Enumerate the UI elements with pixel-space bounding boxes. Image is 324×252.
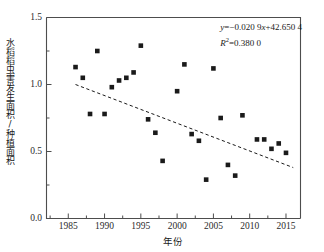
eq-intercept: +42.650 4 xyxy=(265,22,302,32)
y-tick-label: 0.5 xyxy=(19,146,42,156)
regression-equation: y=−0.020 9x+42.650 4 xyxy=(220,22,302,34)
data-point xyxy=(73,65,78,70)
r-squared-value: =0.380 0 xyxy=(229,38,261,48)
chart-figure: 0.00.51.01.5 198519901995200020052010201… xyxy=(0,0,324,252)
y-tick-label: 1.0 xyxy=(19,79,42,89)
data-point xyxy=(204,177,209,182)
data-point xyxy=(139,43,144,48)
data-point xyxy=(160,159,165,164)
data-point xyxy=(262,137,267,142)
data-point xyxy=(146,117,151,122)
x-tick-label: 2015 xyxy=(273,221,299,231)
x-tick-label: 1990 xyxy=(92,221,118,231)
x-tick-label: 2005 xyxy=(200,221,226,231)
data-point xyxy=(240,113,245,118)
data-point xyxy=(276,141,281,146)
data-point xyxy=(80,76,85,81)
x-tick-label: 2000 xyxy=(164,221,190,231)
data-point xyxy=(153,130,158,135)
data-point xyxy=(269,147,274,152)
data-point xyxy=(88,112,93,117)
data-point xyxy=(284,151,289,156)
regression-trendline xyxy=(76,85,294,168)
eq-coefficient: =−0.020 9 xyxy=(224,22,261,32)
data-point xyxy=(182,62,187,67)
trend-line xyxy=(76,85,294,168)
data-point xyxy=(117,78,122,83)
r-squared-label: R2=0.380 0 xyxy=(220,34,302,50)
data-point xyxy=(197,138,202,143)
y-tick-label: 0.0 xyxy=(19,213,42,223)
x-tick-label: 2010 xyxy=(237,221,263,231)
data-point xyxy=(110,85,115,90)
data-point xyxy=(233,173,238,178)
x-tick-label: 1985 xyxy=(55,221,81,231)
data-point xyxy=(255,137,260,142)
y-tick-label: 1.5 xyxy=(19,12,42,22)
data-points-group xyxy=(73,43,288,182)
data-point xyxy=(226,163,231,168)
data-point xyxy=(124,76,129,81)
data-point xyxy=(189,132,194,137)
regression-annotation: y=−0.020 9x+42.650 4 R2=0.380 0 xyxy=(220,22,302,49)
data-point xyxy=(95,49,100,54)
data-point xyxy=(218,116,223,121)
y-axis-title: 水稻稻虫害发生面积/种植面积 xyxy=(4,38,17,165)
x-axis-title: 年份 xyxy=(163,234,183,248)
data-point xyxy=(211,66,216,71)
x-tick-label: 1995 xyxy=(128,221,154,231)
data-point xyxy=(175,89,180,94)
data-point xyxy=(102,112,107,117)
data-point xyxy=(131,70,136,75)
